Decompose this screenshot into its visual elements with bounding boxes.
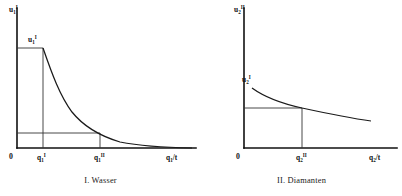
figure-root: u1I u1I 0 q1I q1II q1/t I. Wasser (0, 0, 402, 196)
y-axis-label-diamanten: u2II (234, 4, 245, 15)
utility-curve-diamanten (252, 88, 371, 121)
curve-label-wasser: u1I (28, 34, 37, 45)
origin-label-wasser: 0 (9, 152, 13, 161)
caption-wasser: I. Wasser (0, 176, 201, 185)
x-axis-label-wasser: q1/t (166, 153, 178, 163)
chart-panel-wasser: u1I u1I 0 q1I q1II q1/t (0, 0, 201, 196)
x-tick-label-q2-II-diamanten: q2II (296, 152, 307, 163)
origin-label-diamanten: 0 (236, 152, 240, 161)
x-tick-label-q1-I-wasser: q1I (37, 152, 46, 163)
caption-diamanten: II. Diamanten (201, 176, 402, 185)
x-tick-label-q1-II-wasser: q1II (94, 152, 105, 163)
chart-panel-diamanten: u2II u2I 0 q2II q2/t (201, 0, 402, 196)
x-axis-label-diamanten: q2/t (369, 153, 381, 163)
curve-label-diamanten: u2I (242, 74, 251, 85)
